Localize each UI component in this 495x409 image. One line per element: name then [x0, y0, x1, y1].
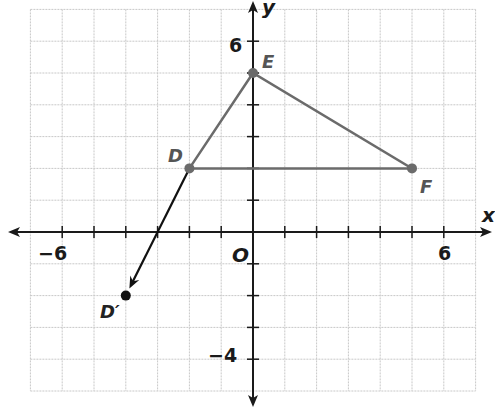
coordinate-plane: y x O −6 6 6 −4 E D F D′ [0, 0, 495, 409]
point-d [184, 163, 194, 173]
translation-vector [129, 168, 189, 288]
point-label-d-prime: D′ [100, 301, 120, 322]
y-axis-label: y [262, 0, 276, 19]
axes [8, 1, 492, 407]
point-e [248, 68, 258, 78]
point-label-e: E [262, 51, 275, 72]
tick-label-y-neg4: −4 [208, 344, 237, 366]
point-label-f: F [420, 176, 433, 197]
tick-label-y-6: 6 [229, 34, 242, 56]
x-axis-label: x [481, 203, 495, 227]
tick-label-x-6: 6 [438, 242, 451, 264]
points [121, 68, 417, 301]
point-f [407, 163, 417, 173]
origin-label: O [232, 243, 249, 267]
tick-label-x-neg6: −6 [38, 242, 67, 264]
point-d-prime [121, 291, 131, 301]
point-label-d: D [168, 145, 183, 166]
triangle-def [189, 73, 412, 168]
